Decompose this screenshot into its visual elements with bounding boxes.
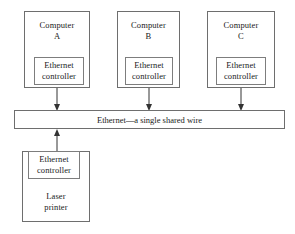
diagram-canvas: Computer A Ethernet controller Computer … [0,0,295,234]
node-laser-printer-label: Laser printer [22,191,90,212]
controller-computer-b-label: Ethernet controller [125,60,173,81]
node-computer-c-label: Computer C [207,20,275,41]
controller-laser-printer-label: Ethernet controller [28,154,80,175]
node-computer-b-label: Computer B [117,20,180,41]
ethernet-bus: Ethernet—a single shared wire [14,110,285,129]
connector-computer-c [236,88,246,111]
ethernet-bus-label: Ethernet—a single shared wire [15,115,284,125]
controller-computer-c-label: Ethernet controller [216,60,266,81]
connector-computer-b [144,88,154,111]
controller-computer-a-label: Ethernet controller [34,60,84,81]
connector-laser-printer [52,129,62,151]
node-computer-a-label: Computer A [24,20,90,41]
connector-computer-a [52,88,62,111]
